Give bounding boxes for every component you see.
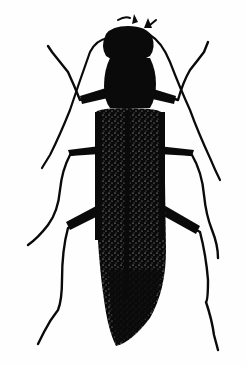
head	[103, 26, 154, 62]
pronotum	[104, 58, 156, 108]
beetle-drawing	[0, 0, 246, 366]
beetle-illustration: beetle illustration	[0, 0, 246, 366]
